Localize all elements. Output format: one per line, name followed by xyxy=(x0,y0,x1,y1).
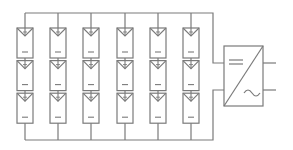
pv-module xyxy=(50,28,66,58)
pv-module xyxy=(150,61,166,91)
pv-module xyxy=(17,28,33,58)
pv-module xyxy=(50,93,66,123)
inverter xyxy=(224,46,276,106)
pv-module xyxy=(117,61,133,91)
pv-module xyxy=(83,61,99,91)
pv-module xyxy=(150,93,166,123)
pv-module xyxy=(17,61,33,91)
pv-string xyxy=(150,13,166,140)
pv-module xyxy=(183,28,199,58)
pv-string xyxy=(117,13,133,140)
pv-module xyxy=(83,28,99,58)
pv-string xyxy=(83,13,99,140)
pv-system-diagram xyxy=(0,0,293,150)
pv-module xyxy=(83,93,99,123)
pv-string xyxy=(50,13,66,140)
pv-module xyxy=(50,61,66,91)
pv-module xyxy=(150,28,166,58)
pv-string xyxy=(183,13,199,140)
pv-string xyxy=(17,13,33,140)
pv-module xyxy=(117,93,133,123)
pv-module xyxy=(183,93,199,123)
pv-array xyxy=(17,13,199,140)
pv-module xyxy=(17,93,33,123)
pv-module xyxy=(183,61,199,91)
pv-module xyxy=(117,28,133,58)
